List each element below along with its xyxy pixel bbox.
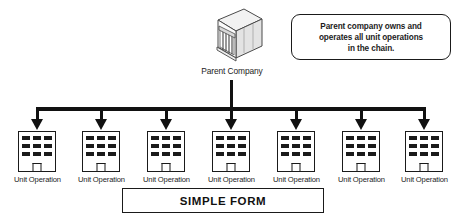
unit-operation-node-5: Unit Operation <box>273 131 319 184</box>
simple-form-caption-box: SIMPLE FORM <box>122 188 324 213</box>
unit-operation-node-1: Unit Operation <box>14 131 60 184</box>
unit-operation-label-4: Unit Operation <box>208 175 254 184</box>
door-icon-4 <box>227 163 236 171</box>
door-icon-2 <box>97 163 106 171</box>
unit-operation-node-4: Unit Operation <box>208 131 254 184</box>
door-icon-1 <box>33 163 42 171</box>
arrowhead-4 <box>225 119 237 130</box>
unit-operation-node-7: Unit Operation <box>401 131 447 184</box>
door-icon-5 <box>292 163 301 171</box>
unit-operation-label-5: Unit Operation <box>273 175 319 184</box>
callout-line-3: in the chain. <box>348 44 394 53</box>
callout-line-1: Parent company owns and <box>320 22 421 31</box>
arrowhead-1 <box>31 119 43 130</box>
office-building-icon-4 <box>212 131 250 172</box>
unit-operation-label-7: Unit Operation <box>401 175 447 184</box>
isometric-office-building-icon <box>200 6 264 64</box>
office-building-icon-6 <box>342 131 380 172</box>
office-building-icon-2 <box>82 131 120 172</box>
arrowhead-3 <box>160 119 172 130</box>
arrowhead-7 <box>418 119 430 130</box>
unit-operation-label-2: Unit Operation <box>78 175 124 184</box>
callout-text: Parent company owns and operates all uni… <box>313 21 429 54</box>
arrowhead-6 <box>355 119 367 130</box>
door-icon-6 <box>357 163 366 171</box>
arrowhead-2 <box>95 119 107 130</box>
door-icon-7 <box>420 163 429 171</box>
parent-company-label: Parent Company <box>196 66 268 76</box>
office-building-icon-1 <box>18 131 56 172</box>
office-building-icon-3 <box>147 131 185 172</box>
office-building-icon-7 <box>405 131 443 172</box>
callout-line-2: operates all unit operations <box>319 33 423 42</box>
unit-operation-label-3: Unit Operation <box>143 175 189 184</box>
diagram-canvas: Parent company owns and operates all uni… <box>0 0 459 221</box>
callout-box: Parent company owns and operates all uni… <box>291 14 451 60</box>
simple-form-caption-text: SIMPLE FORM <box>180 195 266 207</box>
unit-operation-node-3: Unit Operation <box>143 131 189 184</box>
door-icon-3 <box>162 163 171 171</box>
unit-operation-label-6: Unit Operation <box>338 175 384 184</box>
unit-operation-node-2: Unit Operation <box>78 131 124 184</box>
office-building-icon-5 <box>277 131 315 172</box>
unit-operation-node-6: Unit Operation <box>338 131 384 184</box>
arrowhead-5 <box>290 119 302 130</box>
unit-operation-label-1: Unit Operation <box>14 175 60 184</box>
parent-connector-line <box>230 80 233 110</box>
parent-company-node: Parent Company <box>196 6 268 84</box>
